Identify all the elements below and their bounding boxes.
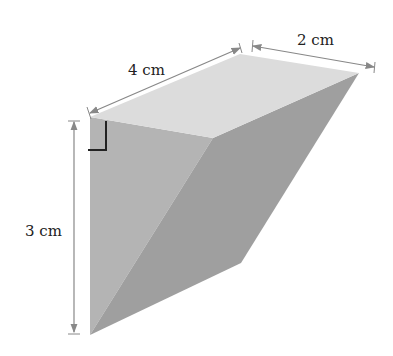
- width-tick-start: [252, 40, 253, 52]
- prism-diagram: 4 cm 2 cm 3 cm: [0, 0, 393, 356]
- height-label: 3 cm: [25, 222, 62, 240]
- length-label: 4 cm: [128, 61, 165, 79]
- width-label: 2 cm: [297, 31, 334, 49]
- width-tick-end: [374, 62, 375, 73]
